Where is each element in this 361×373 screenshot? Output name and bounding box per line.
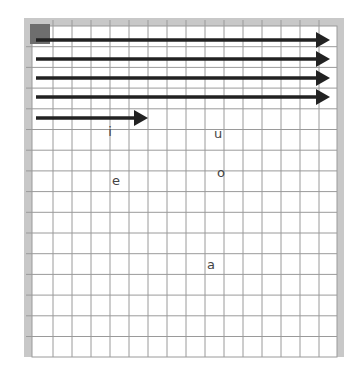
letter-i: i: [108, 124, 112, 139]
right-ruler: [337, 18, 344, 357]
letter-o: o: [217, 165, 225, 180]
grid-diagram: iueoa: [0, 0, 361, 373]
grid-lines: [26, 20, 337, 357]
letter-a: a: [207, 257, 215, 272]
letter-e: e: [112, 173, 120, 188]
letter-u: u: [214, 126, 222, 141]
left-ruler: [24, 18, 32, 357]
